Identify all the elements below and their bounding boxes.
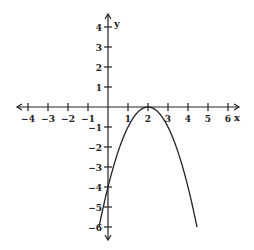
- y-tick-label: −4: [88, 183, 102, 193]
- x-axis-label: x: [234, 112, 241, 123]
- x-tick-label: −2: [61, 114, 75, 124]
- y-tick-label: −5: [88, 203, 102, 213]
- y-tick-label: 2: [96, 63, 102, 73]
- x-tick-label: 5: [205, 114, 211, 124]
- x-tick-label: 2: [145, 114, 151, 124]
- y-tick-label: 3: [96, 43, 102, 53]
- curve-path: [99, 107, 197, 227]
- x-tick-label: −4: [21, 114, 35, 124]
- y-tick-label: −1: [88, 123, 102, 133]
- y-tick-label: 1: [96, 83, 102, 93]
- y-tick-label: −3: [88, 163, 102, 173]
- parabola-graph: −4−3−2−11234564321−1−2−3−4−5−6 y x: [0, 0, 254, 250]
- axis-ticks: −4−3−2−11234564321−1−2−3−4−5−6: [21, 23, 231, 233]
- y-axis-label: y: [113, 18, 121, 29]
- x-tick-label: −3: [41, 114, 55, 124]
- parabola-curve: [99, 107, 197, 227]
- x-tick-label: 6: [225, 114, 231, 124]
- y-tick-label: 4: [96, 23, 102, 33]
- x-tick-label: 4: [185, 114, 191, 124]
- y-tick-label: −2: [88, 143, 102, 153]
